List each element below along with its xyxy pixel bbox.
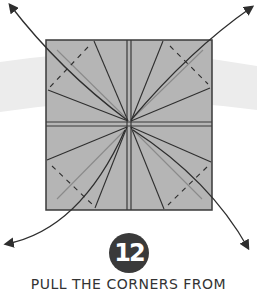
step-number-badge: 12 (109, 233, 149, 273)
step-instruction: PULL THE CORNERS FROM (0, 276, 257, 289)
folded-square (46, 40, 212, 210)
